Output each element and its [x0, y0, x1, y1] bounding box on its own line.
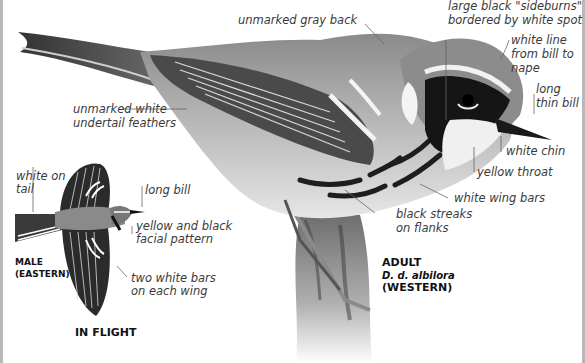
- label-sideburns-line2: bordered by white spot: [448, 14, 582, 27]
- label-black-streaks-line2: on flanks: [396, 222, 448, 235]
- caption-male: MALE: [15, 256, 43, 268]
- caption-western: (WESTERN): [382, 281, 452, 294]
- stump-perch: [290, 205, 372, 363]
- label-black-streaks-line1: black streaks: [396, 208, 472, 221]
- label-yellow-throat: yellow throat: [477, 166, 553, 179]
- label-white-line-line2: from bill to: [511, 48, 574, 61]
- subspecies-name: D. d. albilora: [382, 270, 455, 281]
- label-white-line-line3: nape: [511, 62, 540, 75]
- flight-bird-illustration: [15, 163, 145, 316]
- caption-in-flight: IN FLIGHT: [75, 326, 136, 339]
- caption-eastern: (EASTERN): [15, 268, 70, 280]
- label-bill-line2: thin bill: [536, 97, 579, 110]
- label-sideburns-line1: large black "sideburns": [448, 0, 582, 13]
- label-white-bars-line2: on each wing: [131, 285, 208, 298]
- label-bill-line1: long: [536, 83, 561, 96]
- field-guide-plate: unmarked gray back large black "sideburn…: [0, 0, 585, 363]
- label-white-line-line1: white line: [511, 34, 567, 47]
- label-facial-pattern-line2: facial pattern: [136, 233, 213, 246]
- label-long-bill: long bill: [145, 184, 190, 197]
- label-undertail-line2: undertail feathers: [73, 117, 176, 130]
- label-white-on-tail-line2: tail: [16, 183, 34, 196]
- label-undertail-line1: unmarked white: [73, 103, 167, 116]
- caption-adult: ADULT: [382, 256, 421, 269]
- illustration-layer: [0, 0, 585, 363]
- label-unmarked-gray-back: unmarked gray back: [238, 14, 357, 27]
- label-white-wing-bars: white wing bars: [454, 192, 545, 205]
- label-white-chin: white chin: [506, 145, 565, 158]
